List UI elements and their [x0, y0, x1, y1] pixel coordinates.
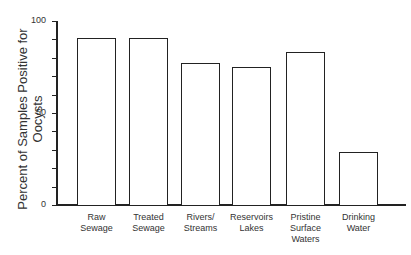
y-tick [52, 187, 57, 188]
y-tick [52, 95, 57, 96]
y-tick-label: 0 [26, 199, 46, 209]
y-tick [52, 113, 57, 114]
bar [77, 38, 116, 205]
y-tick [52, 76, 57, 77]
x-category-label: Drinking Water [329, 212, 389, 234]
y-tick-label: 100 [26, 15, 46, 25]
y-tick [52, 168, 57, 169]
bar [181, 63, 220, 205]
y-axis-label: Percent of Samples Positive for Oocysts [15, 9, 45, 229]
x-category-label: Treated Sewage [119, 212, 179, 234]
bar-chart: Percent of Samples Positive for Oocysts … [0, 0, 411, 255]
bar [286, 52, 325, 205]
y-tick [52, 58, 57, 59]
y-tick [52, 205, 57, 206]
bar [339, 152, 378, 205]
y-tick [52, 21, 57, 22]
bar [232, 67, 271, 205]
x-category-label: Pristine Surface Waters [276, 212, 336, 245]
x-category-label: Raw Sewage [67, 212, 127, 234]
y-tick [52, 131, 57, 132]
bar [129, 38, 168, 205]
y-tick [52, 150, 57, 151]
x-category-label: Reservoirs Lakes [222, 212, 282, 234]
y-tick [52, 39, 57, 40]
y-tick-label: 50 [26, 107, 46, 117]
